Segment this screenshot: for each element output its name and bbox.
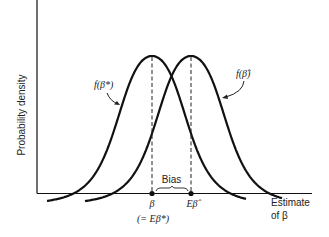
tick-label-beta: β <box>149 198 155 209</box>
arrow-right-pointer <box>226 81 244 97</box>
curve-right-label: f(β̂) <box>236 68 251 80</box>
curve-f-beta-star <box>47 56 246 201</box>
tick-label-beta-sub: (= Eβ*) <box>137 213 170 225</box>
curve-left-label: f(β*) <box>94 79 114 91</box>
y-axis-label: Probability density <box>16 74 27 155</box>
arrow-right-head <box>222 95 228 100</box>
bias-diagram: Bias f(β*) f(β̂) β (= Eβ*) Eβ̂ Estimate … <box>0 0 329 237</box>
point-beta <box>149 191 154 196</box>
x-axis-label-line2: of β <box>271 210 288 221</box>
bias-label: Bias <box>162 174 181 185</box>
point-e-beta-hat <box>188 191 193 196</box>
tick-label-e-beta-hat: Eβ̂ <box>185 198 201 209</box>
x-axis-label-line1: Estimate <box>271 197 310 208</box>
bias-bracket <box>156 186 188 191</box>
